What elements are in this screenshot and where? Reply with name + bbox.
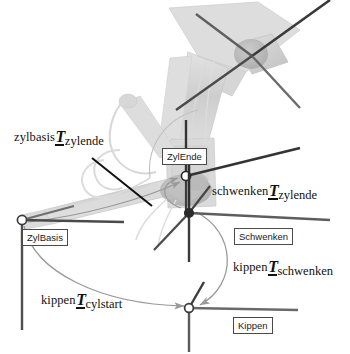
transform-target-schwenken: schwenken [277,264,333,278]
transform-source-zylbasis: zylbasis [14,130,55,144]
leader-line-zylbasis-to-zylende [92,158,152,206]
frame-label-kippen[interactable]: Kippen [233,317,273,334]
frame-label-schwenken[interactable]: Schwenken [234,228,293,245]
frame-label-zylende[interactable]: ZylEnde [162,148,207,165]
transform-label-kippen-to-schwenken: kippenTschwenken [233,258,333,274]
frame-axes-top-joint [176,0,330,110]
frame-origin-schwenken [185,209,194,218]
transform-source-kippen: kippen [233,260,268,274]
frame-label-zylbasis[interactable]: ZylBasis [22,229,68,246]
frame-origin-kippen [185,304,194,313]
transform-label-zylbasis-to-zylende: zylbasisTzylende [14,128,104,144]
transform-label-schwenken-to-zylende: schwenkenTzylende [212,182,317,198]
transform-label-kippen-to-cylstart: kippenTcylstart [41,291,122,307]
transform-source-kippen: kippen [41,293,76,307]
transform-source-schwenken: schwenken [212,184,268,198]
kinematics-diagram: ZylEnde ZylBasis Schwenken Kippen zylbas… [0,0,350,354]
frame-origin-zylbasis [17,215,26,224]
transform-target-zylende: zylende [278,188,317,202]
transform-target-zylende: zylende [65,134,104,148]
frame-axes-schwenken [154,150,330,262]
transform-target-cylstart: cylstart [85,297,122,311]
frame-axes-zylbasis [17,206,124,330]
